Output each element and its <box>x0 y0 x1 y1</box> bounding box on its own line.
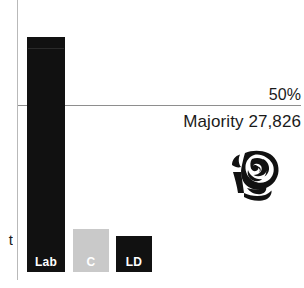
labour-rose-icon <box>230 150 280 202</box>
bar-lab: Lab <box>27 37 65 272</box>
election-result-bar-chart: t 50% Majority 27,826 <box>0 0 304 288</box>
bar-lab-fill <box>27 37 65 272</box>
bar-c-label: C <box>73 256 109 269</box>
bar-c: C <box>73 229 109 272</box>
bar-ld-label: LD <box>116 256 152 269</box>
bar-ld: LD <box>116 236 152 272</box>
bar-lab-seam <box>28 48 64 49</box>
fifty-percent-label: 50% <box>269 86 301 104</box>
majority-annotation: Majority 27,826 <box>183 112 301 132</box>
bar-lab-label: Lab <box>27 256 65 269</box>
plot-area: 50% Majority 27,826 <box>0 0 304 288</box>
